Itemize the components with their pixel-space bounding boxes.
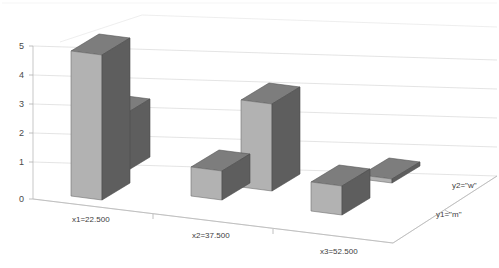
depth-category-label: y2="w" <box>452 181 477 190</box>
y-tick-labels: 5 4 3 2 1 0 <box>19 41 24 204</box>
y-tick-label: 1 <box>19 157 24 167</box>
bar-x3-m <box>311 165 370 215</box>
x-category-label: x1=22.500 <box>72 215 110 224</box>
bar-x1-m <box>71 34 130 200</box>
chart-3d-bar: 5 4 3 2 1 0 <box>0 0 499 268</box>
depth-category-label: y1="m" <box>436 210 462 219</box>
y-tick-label: 4 <box>19 70 24 80</box>
y-tick-label: 3 <box>19 99 24 109</box>
y-tick-label: 0 <box>19 194 24 204</box>
y-tick-label: 2 <box>19 128 24 138</box>
chart-canvas: 5 4 3 2 1 0 <box>0 0 499 268</box>
x-category-label: x2=37.500 <box>192 231 230 240</box>
y-axis <box>29 46 33 199</box>
bar-x2-m <box>191 150 250 200</box>
depth-category-labels: y2="w" y1="m" <box>436 181 477 219</box>
y-tick-label: 5 <box>19 41 24 51</box>
back-wall-top-edge <box>2 3 497 42</box>
x-category-label: x3=52.500 <box>320 247 358 256</box>
